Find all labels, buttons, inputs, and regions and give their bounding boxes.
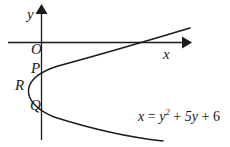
point-label-r: R <box>15 78 24 93</box>
y-axis-label: y <box>27 7 34 22</box>
x-axis-label: x <box>163 47 170 62</box>
x-axis-arrowhead <box>182 37 192 49</box>
equation-constant: 6 <box>213 109 220 124</box>
equation-equals: = <box>148 109 156 124</box>
point-label-q: Q <box>30 98 41 113</box>
equation-linear-term: 5y <box>185 109 198 124</box>
parabola-figure: y x O P R Q x = y2 + 5y + 6 <box>0 0 230 147</box>
point-label-p: P <box>31 61 40 76</box>
origin-label: O <box>31 42 42 57</box>
y-axis-arrowhead <box>36 4 48 14</box>
parabola-curve <box>28 28 190 141</box>
curve-equation-label: x = y2 + 5y + 6 <box>138 110 220 124</box>
